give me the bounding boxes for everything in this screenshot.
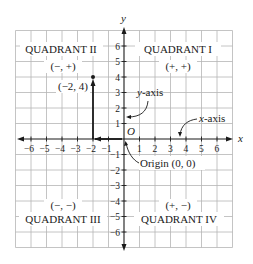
x-tick-labels: −6 −5 −4 −3 −2 −1 1 2 3 4 5 6	[24, 144, 220, 154]
quadrant-i-signs: (+, +)	[165, 60, 191, 73]
svg-text:1: 1	[137, 144, 142, 154]
svg-text:−3: −3	[110, 181, 120, 191]
svg-text:−2: −2	[86, 144, 96, 154]
x-axis-arrow-right	[226, 137, 233, 142]
quadrant-ii-label: QUADRANT II	[25, 43, 97, 55]
svg-text:3: 3	[115, 88, 120, 98]
quadrant-i-label: QUADRANT I	[144, 43, 212, 55]
svg-text:3: 3	[168, 144, 173, 154]
svg-text:−5: −5	[110, 212, 120, 222]
svg-text:−6: −6	[24, 144, 34, 154]
origin-callout: Origin (0, 0)	[140, 157, 196, 170]
svg-text:−2: −2	[110, 166, 120, 176]
quadrant-iii-signs: (−, −)	[50, 199, 76, 212]
y-axis-callout-arrow	[128, 101, 148, 117]
origin-letter: O	[127, 125, 135, 137]
svg-text:−3: −3	[71, 144, 81, 154]
svg-text:−5: −5	[40, 144, 50, 154]
svg-text:4: 4	[184, 144, 189, 154]
svg-text:6: 6	[115, 42, 120, 52]
quadrant-iv-signs: (+, −)	[165, 199, 191, 212]
svg-text:5: 5	[199, 144, 204, 154]
svg-text:5: 5	[115, 57, 120, 67]
quadrant-ii-signs: (−, +)	[50, 60, 76, 73]
y-axis-label: y	[120, 12, 126, 24]
svg-text:6: 6	[215, 144, 220, 154]
y-axis-callout: y-axis	[136, 86, 163, 98]
svg-text:1: 1	[115, 119, 120, 129]
svg-text:−4: −4	[55, 144, 65, 154]
svg-text:2: 2	[153, 144, 158, 154]
svg-text:2: 2	[115, 104, 120, 114]
point-arrow-up	[91, 79, 96, 86]
x-axis-arrow-left	[17, 137, 24, 142]
svg-text:−6: −6	[110, 228, 120, 238]
point-arrow-left	[94, 137, 101, 142]
svg-text:4: 4	[115, 73, 120, 83]
x-axis-callout: x-axis	[198, 112, 225, 124]
quadrant-iii-label: QUADRANT III	[25, 213, 101, 225]
quadrant-iv-label: QUADRANT IV	[141, 213, 217, 225]
svg-text:−4: −4	[110, 197, 120, 207]
x-axis-callout-arrow	[180, 119, 197, 135]
point-marker	[91, 75, 95, 79]
coordinate-plane: y x O −6 −5 −4 −3 −2 −1 1 2 3 4 5 6 6 5 …	[0, 0, 253, 264]
x-axis-label: x	[237, 132, 243, 144]
point-label: (−2, 4)	[58, 80, 88, 93]
svg-text:−1: −1	[110, 150, 120, 160]
